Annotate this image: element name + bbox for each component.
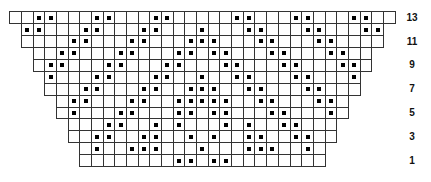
- purl-dot-icon: [200, 39, 204, 43]
- purl-dot-icon: [95, 87, 99, 91]
- purl-dot-icon: [25, 28, 29, 32]
- purl-dot-icon: [142, 135, 146, 139]
- purl-dot-icon: [154, 123, 158, 127]
- purl-dot-icon: [270, 147, 274, 151]
- purl-dot-icon: [142, 99, 146, 103]
- stitch-cell: [371, 35, 384, 48]
- knitting-chart: 131197531: [0, 0, 431, 182]
- purl-dot-icon: [294, 16, 298, 20]
- row-number-label: 7: [402, 83, 422, 95]
- purl-dot-icon: [317, 39, 321, 43]
- stitch-cell: [336, 107, 349, 120]
- purl-dot-icon: [235, 63, 239, 67]
- row-number-label: 9: [402, 59, 422, 71]
- purl-dot-icon: [95, 135, 99, 139]
- purl-dot-icon: [177, 123, 181, 127]
- purl-dot-icon: [341, 63, 345, 67]
- purl-dot-icon: [212, 99, 216, 103]
- purl-dot-icon: [235, 16, 239, 20]
- stitch-cell: [325, 130, 338, 143]
- purl-dot-icon: [294, 123, 298, 127]
- purl-dot-icon: [247, 147, 251, 151]
- purl-dot-icon: [212, 39, 216, 43]
- purl-dot-icon: [306, 75, 310, 79]
- purl-dot-icon: [306, 16, 310, 20]
- purl-dot-icon: [259, 87, 263, 91]
- purl-dot-icon: [49, 63, 53, 67]
- purl-dot-icon: [224, 63, 228, 67]
- purl-dot-icon: [177, 99, 181, 103]
- purl-dot-icon: [247, 16, 251, 20]
- purl-dot-icon: [224, 159, 228, 163]
- purl-dot-icon: [165, 75, 169, 79]
- purl-dot-icon: [247, 135, 251, 139]
- purl-dot-icon: [130, 39, 134, 43]
- purl-dot-icon: [212, 51, 216, 55]
- purl-dot-icon: [60, 63, 64, 67]
- purl-dot-icon: [247, 123, 251, 127]
- purl-dot-icon: [189, 39, 193, 43]
- purl-dot-icon: [235, 75, 239, 79]
- purl-dot-icon: [317, 87, 321, 91]
- purl-dot-icon: [282, 63, 286, 67]
- purl-dot-icon: [60, 51, 64, 55]
- purl-dot-icon: [72, 39, 76, 43]
- purl-dot-icon: [119, 111, 123, 115]
- purl-dot-icon: [270, 111, 274, 115]
- purl-dot-icon: [224, 123, 228, 127]
- purl-dot-icon: [107, 123, 111, 127]
- purl-dot-icon: [177, 63, 181, 67]
- row-number-label: 11: [402, 36, 422, 48]
- purl-dot-icon: [282, 123, 286, 127]
- purl-dot-icon: [107, 135, 111, 139]
- purl-dot-icon: [189, 111, 193, 115]
- purl-dot-icon: [294, 63, 298, 67]
- purl-dot-icon: [212, 135, 216, 139]
- purl-dot-icon: [259, 135, 263, 139]
- purl-dot-icon: [119, 51, 123, 55]
- purl-dot-icon: [189, 51, 193, 55]
- stitch-cell: [313, 154, 326, 167]
- purl-dot-icon: [37, 16, 41, 20]
- stitch-cell: [348, 83, 361, 96]
- purl-dot-icon: [306, 87, 310, 91]
- purl-dot-icon: [154, 28, 158, 32]
- purl-dot-icon: [130, 147, 134, 151]
- purl-dot-icon: [352, 16, 356, 20]
- purl-dot-icon: [294, 135, 298, 139]
- purl-dot-icon: [154, 147, 158, 151]
- purl-dot-icon: [189, 87, 193, 91]
- purl-dot-icon: [200, 147, 204, 151]
- purl-dot-icon: [142, 28, 146, 32]
- purl-dot-icon: [84, 39, 88, 43]
- row-number-label: 5: [402, 107, 422, 119]
- purl-dot-icon: [49, 16, 53, 20]
- purl-dot-icon: [364, 28, 368, 32]
- purl-dot-icon: [247, 87, 251, 91]
- purl-dot-icon: [165, 63, 169, 67]
- row-number-label: 13: [402, 12, 422, 24]
- purl-dot-icon: [84, 99, 88, 103]
- purl-dot-icon: [270, 51, 274, 55]
- purl-dot-icon: [200, 87, 204, 91]
- purl-dot-icon: [259, 147, 263, 151]
- purl-dot-icon: [200, 99, 204, 103]
- row-number-label: 1: [402, 155, 422, 167]
- purl-dot-icon: [270, 39, 274, 43]
- purl-dot-icon: [212, 87, 216, 91]
- purl-dot-icon: [282, 51, 286, 55]
- purl-dot-icon: [107, 16, 111, 20]
- purl-dot-icon: [329, 51, 333, 55]
- purl-dot-icon: [224, 99, 228, 103]
- purl-dot-icon: [364, 16, 368, 20]
- purl-dot-icon: [154, 16, 158, 20]
- purl-dot-icon: [154, 75, 158, 79]
- purl-dot-icon: [306, 135, 310, 139]
- purl-dot-icon: [72, 99, 76, 103]
- purl-dot-icon: [270, 99, 274, 103]
- purl-dot-icon: [376, 28, 380, 32]
- purl-dot-icon: [95, 75, 99, 79]
- purl-dot-icon: [200, 28, 204, 32]
- purl-dot-icon: [154, 135, 158, 139]
- purl-dot-icon: [317, 99, 321, 103]
